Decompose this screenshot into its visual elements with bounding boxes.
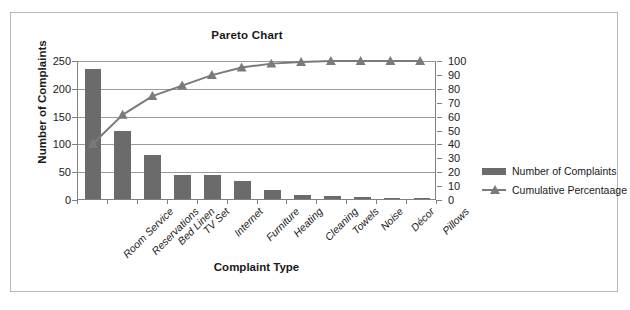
y2-axis-tick-label: 0 [448, 194, 454, 206]
y2-axis-tick-mark [437, 186, 442, 187]
y2-axis-tick-label: 10 [448, 180, 460, 192]
y2-axis-tick-label: 40 [448, 138, 460, 150]
x-axis-tick-mark [436, 200, 437, 204]
y-axis-tick-label: 150 [53, 111, 71, 123]
chart-title: Pareto Chart [11, 29, 483, 41]
y-axis-tick-label: 100 [53, 138, 71, 150]
y2-axis-tick-mark [437, 158, 442, 159]
y-axis-tick-label: 200 [53, 83, 71, 95]
x-axis-category-labels: Room ServiceReservationsBed LinenTV SetI… [77, 203, 436, 261]
y2-axis-tick-mark [437, 144, 442, 145]
legend-line-triangle-icon [481, 183, 507, 197]
legend-bar-swatch-icon [481, 164, 507, 178]
y2-axis-tick-mark [437, 131, 442, 132]
y2-axis-tick-mark [437, 103, 442, 104]
plot-area [77, 61, 436, 200]
legend-label-cumulative: Cumulative Percentaage [512, 184, 627, 196]
y2-axis-tick-label: 70 [448, 97, 460, 109]
y-axis-left: 050100150200250 [11, 13, 77, 253]
y2-axis-tick-mark [437, 117, 442, 118]
cumulative-line [93, 61, 420, 144]
y2-axis-tick-label: 90 [448, 69, 460, 81]
y-axis-tick-label: 0 [65, 194, 71, 206]
cumulative-marker [118, 110, 128, 119]
category-label: Noise [378, 205, 405, 232]
legend-item-cumulative: Cumulative Percentaage [481, 180, 630, 199]
y2-axis-tick-label: 20 [448, 166, 460, 178]
x-axis-title: Complaint Type [77, 261, 436, 273]
category-label: Décor [408, 205, 436, 233]
chart-screenshot: Pareto Chart Number of Complaints 050100… [0, 0, 630, 310]
chart-frame: Pareto Chart Number of Complaints 050100… [10, 12, 618, 292]
y2-axis-tick-label: 100 [448, 55, 466, 67]
y2-axis-tick-mark [437, 75, 442, 76]
legend-item-complaints: Number of Complaints [481, 161, 630, 180]
y2-axis-tick-label: 50 [448, 125, 460, 137]
chart-legend: Number of Complaints Cumulative Percenta… [481, 161, 630, 199]
y2-axis-tick-mark [437, 61, 442, 62]
y2-axis-tick-mark [437, 89, 442, 90]
y2-axis-tick-label: 80 [448, 83, 460, 95]
y2-axis-tick-label: 30 [448, 152, 460, 164]
cumulative-line-series [78, 61, 435, 199]
category-label: Internet [231, 205, 265, 239]
y2-axis-tick-mark [437, 200, 442, 201]
y-axis-tick-label: 50 [59, 166, 71, 178]
y2-axis-tick-label: 60 [448, 111, 460, 123]
legend-label-complaints: Number of Complaints [512, 165, 616, 177]
y2-axis-tick-mark [437, 172, 442, 173]
y-axis-tick-label: 250 [53, 55, 71, 67]
